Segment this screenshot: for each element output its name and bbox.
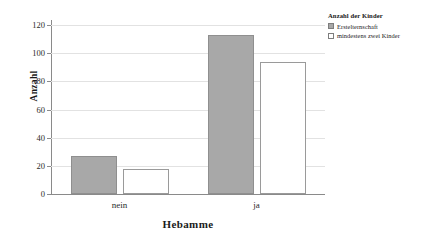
bar-nein-series-1 [123,169,169,194]
y-axis-tick-mark [47,25,51,26]
legend-swatch-icon [328,33,334,39]
plot-area [51,25,325,194]
legend-title: Anzahl der Kinder [328,12,422,19]
gridline [51,53,325,54]
y-axis-tick-label: 80 [19,76,45,86]
y-axis-tick-mark [47,53,51,54]
bar-chart-figure: Anzahl Anzahl der Kinder Erstelternschaf… [0,0,424,243]
legend-item-erstelternschaft: Erstelternschaft [328,23,422,30]
x-axis-tick-label: ja [217,200,297,210]
bar-ja-series-1 [260,62,306,194]
x-axis-tick-label: nein [80,200,160,210]
bar-nein-series-0 [71,156,117,194]
y-axis-tick-label: 60 [19,105,45,115]
y-axis-tick-label: 0 [19,189,45,199]
x-axis-line [51,194,325,195]
y-axis-tick-label: 20 [19,161,45,171]
bar-ja-series-0 [208,35,254,194]
y-axis-tick-mark [47,138,51,139]
legend-item-label: mindestens zwei Kinder [337,32,400,39]
y-axis-tick-mark [47,81,51,82]
x-axis-title: Hebamme [51,218,325,230]
y-axis-tick-mark [47,166,51,167]
y-axis-tick-label: 100 [19,48,45,58]
legend-item-label: Erstelternschaft [337,23,378,30]
gridline [51,25,325,26]
legend-item-mindestens-zwei-kinder: mindestens zwei Kinder [328,32,422,39]
y-axis-tick-label: 120 [19,20,45,30]
legend: Anzahl der Kinder Erstelternschaft minde… [328,12,422,42]
legend-swatch-icon [328,23,334,29]
y-axis-tick-mark [47,194,51,195]
y-axis-tick-mark [47,110,51,111]
y-axis-tick-label: 40 [19,133,45,143]
